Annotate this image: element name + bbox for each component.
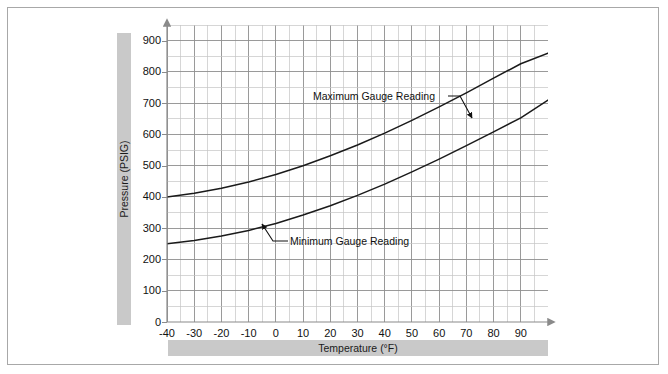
- annotation-min-arrow: [262, 224, 288, 241]
- chart-page: Pressure (PSIG) Temperature (°F) 0100200…: [0, 0, 668, 374]
- annotation-leaders: [0, 0, 668, 374]
- annotation-max-arrow: [448, 96, 472, 118]
